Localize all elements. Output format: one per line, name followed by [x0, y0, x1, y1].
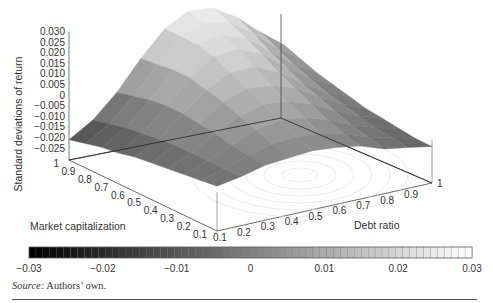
svg-text:0.015: 0.015 [40, 58, 65, 69]
svg-text:0.1: 0.1 [193, 229, 207, 240]
svg-text:0.4: 0.4 [144, 205, 158, 216]
svg-text:0.005: 0.005 [40, 79, 65, 90]
svg-text:0.5: 0.5 [309, 211, 323, 222]
debt-ratio-label: Debt ratio [354, 219, 400, 231]
svg-text:0.8: 0.8 [380, 195, 394, 206]
svg-text:0.01: 0.01 [315, 263, 335, 274]
svg-text:0.3: 0.3 [160, 213, 174, 224]
svg-text:−0.010: −0.010 [34, 111, 65, 122]
svg-text:0.030: 0.030 [40, 26, 65, 37]
svg-text:−0.02: −0.02 [90, 263, 116, 274]
svg-text:0.010: 0.010 [40, 68, 65, 79]
svg-text:0.020: 0.020 [40, 47, 65, 58]
bottom-rule [12, 299, 477, 300]
svg-text:0.2: 0.2 [237, 227, 251, 238]
svg-text:−0.01: −0.01 [164, 263, 190, 274]
svg-text:0.8: 0.8 [78, 174, 92, 185]
svg-text:0: 0 [59, 90, 65, 101]
svg-text:−0.005: −0.005 [34, 100, 65, 111]
svg-text:0.7: 0.7 [94, 182, 108, 193]
svg-text:0: 0 [248, 263, 254, 274]
svg-text:0.9: 0.9 [61, 166, 75, 177]
svg-text:0.6: 0.6 [111, 190, 125, 201]
svg-text:0.1: 0.1 [213, 232, 227, 243]
svg-text:0.4: 0.4 [285, 216, 299, 227]
svg-text:0.025: 0.025 [40, 37, 65, 48]
svg-text:0.5: 0.5 [127, 197, 141, 208]
svg-text:0.2: 0.2 [177, 221, 191, 232]
svg-text:−0.015: −0.015 [34, 121, 65, 132]
market-cap-label: Market capitalization [30, 220, 126, 232]
svg-text:0.02: 0.02 [388, 263, 408, 274]
source-label: Source: [12, 280, 44, 291]
colorbar-ticks: −0.03−0.02−0.0100.010.020.03 [16, 263, 482, 274]
svg-text:0.3: 0.3 [261, 221, 275, 232]
z-axis-ticks: 0.0300.0250.0200.0150.0100.0050−0.005−0.… [34, 26, 65, 154]
svg-text:−0.025: −0.025 [34, 143, 65, 154]
svg-text:−0.020: −0.020 [34, 132, 65, 143]
svg-text:1: 1 [437, 178, 443, 189]
svg-text:0.7: 0.7 [356, 200, 370, 211]
colorbar [29, 247, 472, 258]
surface-chart: 0.0300.0250.0200.0150.0100.0050−0.005−0.… [0, 0, 493, 303]
z-axis-label: Standard deviations of return [12, 56, 24, 191]
svg-text:0.03: 0.03 [462, 263, 482, 274]
debt-ratio-ticks: 0.10.20.30.40.50.60.70.80.91 [213, 178, 443, 243]
svg-text:0.6: 0.6 [332, 205, 346, 216]
svg-text:1: 1 [53, 158, 59, 169]
source-text: Authors’ own. [44, 280, 106, 291]
svg-text:0.9: 0.9 [404, 189, 418, 200]
source-note: Source: Authors’ own. [12, 280, 106, 291]
svg-text:−0.03: −0.03 [16, 263, 42, 274]
